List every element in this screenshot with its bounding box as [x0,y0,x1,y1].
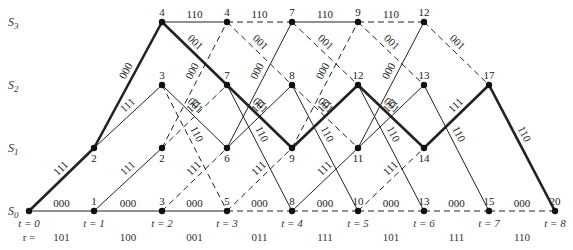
received-symbol: 110 [514,231,531,243]
edge-label: 001 [316,32,336,52]
edge-label: 111 [184,158,204,178]
edge-label: 110 [251,8,268,20]
path-metric-label: 3 [159,195,165,207]
trellis-node [355,208,361,214]
trellis-node [355,145,361,151]
trellis-node [421,19,427,25]
trellis-nodes: 12323456748987101112913141312151720 [26,6,561,214]
time-label-t2: t = 2 [151,217,173,229]
trellis-node [421,145,427,151]
edge-label: 110 [186,8,203,20]
trellis-node [289,208,295,214]
path-metric-label: 13 [419,195,431,207]
edge-label: 001 [447,32,467,52]
path-metric-label: 9 [289,152,295,164]
edge-t1-s1-s2 [94,85,162,148]
trellis-node [486,208,492,214]
edge-label: 111 [249,158,269,178]
trellis-diagram: S0S1S2S3 0001110001111110000001111110001… [0,0,573,250]
path-metric-label: 8 [289,195,295,207]
trellis-node [289,19,295,25]
received-symbol: 101 [383,231,400,243]
trellis-node [224,145,230,151]
path-metric-label: 2 [159,152,165,164]
path-metric-label: 10 [353,195,365,207]
path-metric-label: 7 [289,6,295,18]
path-metric-label: 1 [91,195,97,207]
edge-label: 000 [313,60,332,81]
trellis-node [355,19,361,25]
edge-label: 000 [317,197,334,209]
path-metric-label: 20 [550,195,562,207]
edge-label: 110 [317,8,334,20]
trellis-node [355,82,361,88]
edge-label: 111 [314,158,334,178]
edge-t7-s2-s0 [489,85,555,211]
time-label-t3: t = 3 [216,217,238,229]
path-metric-label: 3 [159,69,165,81]
edge-label: 001 [382,32,402,52]
edge-label: 001 [250,32,270,52]
received-symbol: 111 [449,231,465,243]
state-labels: S0S1S2S3 [8,15,19,220]
path-metric-label: 12 [353,69,364,81]
received-symbol: 011 [251,231,267,243]
path-metric-label: 8 [289,69,295,81]
time-label-t6: t = 6 [413,217,435,229]
edge-label: 000 [53,197,70,209]
time-label-t5: t = 5 [347,217,369,229]
edge-label: 000 [383,197,400,209]
edge-label: 110 [383,8,400,20]
edge-label: 000 [448,197,465,209]
path-metric-label: 7 [224,69,230,81]
path-metric-label: 4 [224,6,230,18]
time-axis: t = 0t = 1t = 2t = 3t = 4t = 5t = 6t = 7… [18,217,566,229]
trellis-node [26,208,32,214]
time-label-t0: t = 0 [18,217,40,229]
trellis-node [421,82,427,88]
path-metric-label: 13 [419,69,431,81]
path-metric-label: 4 [159,6,165,18]
path-metric-label: 15 [484,195,496,207]
trellis-node [224,208,230,214]
path-metric-label: 14 [419,152,431,164]
r-prefix-label: r = [23,231,36,243]
trellis-edges [29,22,555,211]
path-metric-label: 9 [355,6,361,18]
time-label-t4: t = 4 [281,217,303,229]
time-label-t1: t = 1 [83,217,104,229]
received-sequence-row: r = 101100001011111101111110 [23,231,531,243]
trellis-node [159,19,165,25]
edge-label: 000 [120,197,137,209]
state-label-s3: S3 [8,15,19,31]
state-label-s1: S1 [8,141,19,157]
state-label-s2: S2 [8,78,19,94]
received-symbol: 111 [317,231,333,243]
edge-t1-s1-s3 [94,22,162,148]
edge-label: 000 [514,197,531,209]
trellis-node [552,208,558,214]
trellis-node [486,82,492,88]
trellis-node [224,82,230,88]
trellis-node [91,145,97,151]
path-metric-label: 17 [484,69,496,81]
trellis-node [421,208,427,214]
time-label-t8: t = 8 [544,217,566,229]
trellis-node [159,145,165,151]
edge-label: 111 [380,158,400,178]
time-label-t7: t = 7 [478,217,500,229]
received-symbol: 100 [120,231,137,243]
trellis-node [159,208,165,214]
edge-label: 000 [251,197,268,209]
trellis-node [91,208,97,214]
path-metric-label: 12 [419,6,430,18]
path-metric-label: 5 [224,195,230,207]
received-symbol: 101 [53,231,70,243]
edge-label: 000 [183,60,201,81]
path-metric-label: 11 [353,152,364,164]
edge-labels: 0001110001111110000001111110001100010011… [51,8,534,209]
trellis-node [289,82,295,88]
path-metric-label: 6 [224,152,230,164]
received-symbol: 001 [186,231,203,243]
trellis-node [289,145,295,151]
